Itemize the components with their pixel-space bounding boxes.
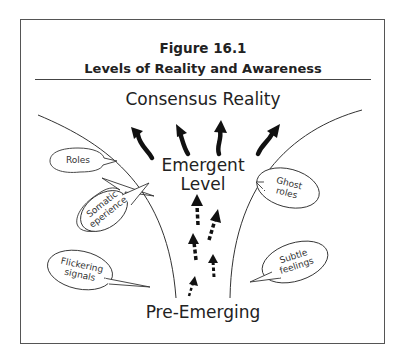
level-emergent: Emergent Level xyxy=(153,156,253,194)
solid-arrow-icon xyxy=(258,124,280,154)
dashed-arrow-icon xyxy=(191,194,203,225)
dashed-arrow-icon xyxy=(209,209,221,240)
level-emergent-line1: Emergent xyxy=(153,156,253,175)
dashed-arrow-icon xyxy=(208,254,218,277)
level-consensus-reality: Consensus Reality xyxy=(0,89,406,109)
level-emergent-line2: Level xyxy=(153,175,253,194)
solid-arrow-icon xyxy=(131,127,152,158)
dashed-arrow-icon xyxy=(188,233,199,260)
dashed-arrow-icon xyxy=(189,276,198,296)
solid-arrow-icon xyxy=(214,120,227,154)
solid-arrow-icon xyxy=(176,124,188,154)
bubble-text-roles: Roles xyxy=(55,155,101,165)
level-pre-emerging: Pre-Emerging xyxy=(0,302,406,322)
